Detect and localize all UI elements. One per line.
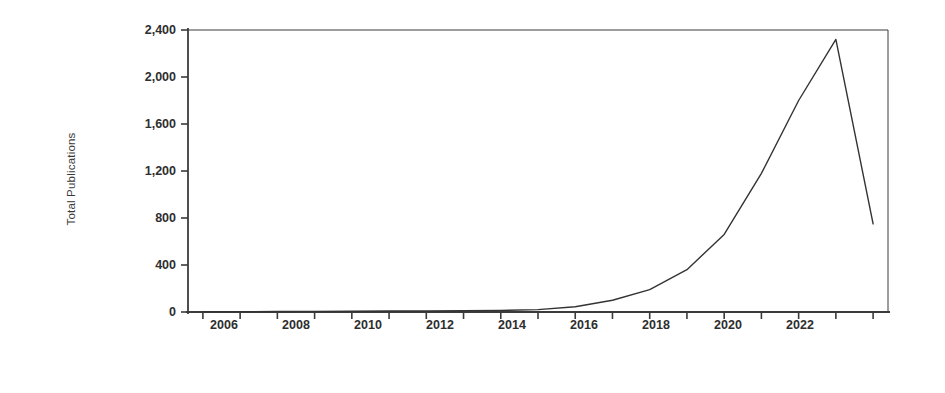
x-axis-ticks	[203, 312, 873, 319]
publications-line-series	[203, 39, 873, 311]
y-axis-ticks	[181, 30, 188, 312]
chart-figure: Total Publications 2,400 2,000 1,600 1,2…	[0, 0, 945, 393]
plot-area	[0, 0, 945, 393]
